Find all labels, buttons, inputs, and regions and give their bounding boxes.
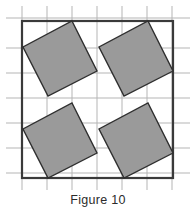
top-left-square: [23, 21, 97, 96]
bottom-right-square: [99, 103, 173, 178]
figure-container: Figure 10: [0, 0, 196, 214]
figure-caption: Figure 10: [0, 193, 196, 207]
grid-lines: [6, 6, 190, 190]
figure-diagram: [0, 0, 196, 214]
bottom-left-square: [23, 103, 97, 178]
top-right-square: [99, 21, 173, 96]
